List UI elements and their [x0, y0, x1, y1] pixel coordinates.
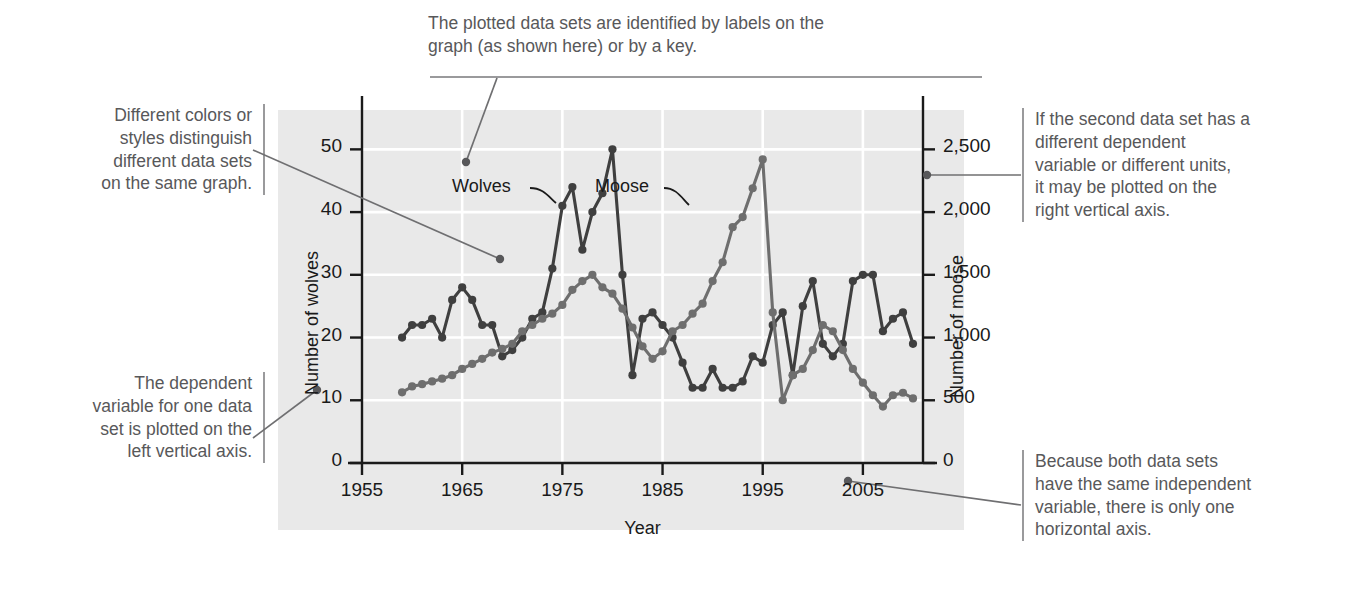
y2-axis-tick-label: 2,000: [943, 198, 991, 220]
y-axis-tick-label: 40: [321, 198, 342, 220]
y-axis-tick-label: 20: [321, 324, 342, 346]
chart-panel: [278, 110, 964, 530]
y-axis-title: Number of wolves: [302, 251, 323, 395]
x-axis-tick-label: 1965: [441, 479, 483, 501]
y2-axis-tick-label: 0: [943, 449, 954, 471]
y-axis-tick-label: 10: [321, 386, 342, 408]
callout-left-bottom-text: The dependent variable for one data set …: [10, 372, 265, 463]
callout-right-top-text: If the second data set has a different d…: [1022, 108, 1347, 222]
callout-left-top-text: Different colors or styles distinguish d…: [10, 104, 265, 195]
callout-top-text: The plotted data sets are identified by …: [428, 12, 988, 58]
y-axis-tick-label: 50: [321, 135, 342, 157]
x-axis-title: Year: [624, 518, 660, 539]
x-axis-tick-label: 1985: [641, 479, 683, 501]
x-axis-tick-label: 1995: [742, 479, 784, 501]
y2-axis-tick-label: 2,500: [943, 135, 991, 157]
y2-axis-title: Number of moose: [947, 255, 968, 398]
x-axis-tick-label: 2005: [842, 479, 884, 501]
series-label-moose: Moose: [595, 176, 649, 197]
x-axis-tick-label: 1955: [341, 479, 383, 501]
callout-top-rule: [430, 76, 982, 78]
figure-canvas: The plotted data sets are identified by …: [0, 0, 1347, 600]
x-axis-tick-label: 1975: [541, 479, 583, 501]
y-axis-tick-label: 0: [331, 449, 342, 471]
series-label-wolves: Wolves: [452, 176, 511, 197]
callout-right-bottom-text: Because both data sets have the same ind…: [1022, 450, 1347, 541]
y-axis-tick-label: 30: [321, 261, 342, 283]
